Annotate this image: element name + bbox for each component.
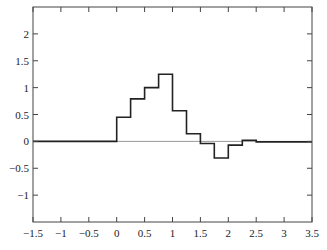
- x-tick-label: 3.5: [305, 227, 319, 239]
- x-axis-ticks: −1.5−1−0.500.511.522.533.5: [23, 7, 319, 239]
- x-tick-label: 0.5: [138, 227, 152, 239]
- plot-frame: [33, 7, 312, 222]
- x-tick-label: 3: [281, 227, 287, 239]
- y-tick-label: −1: [17, 189, 29, 201]
- y-tick-label: 2: [24, 28, 30, 40]
- x-tick-label: 0: [114, 227, 120, 239]
- y-tick-label: 0.5: [15, 109, 29, 121]
- x-tick-label: 2: [226, 227, 232, 239]
- x-tick-label: −1: [55, 227, 67, 239]
- y-tick-label: −0.5: [9, 162, 29, 174]
- x-tick-label: 1.5: [194, 227, 208, 239]
- x-tick-label: 1: [170, 227, 176, 239]
- x-tick-label: −0.5: [79, 227, 99, 239]
- x-tick-label: 2.5: [249, 227, 263, 239]
- step-line: [33, 74, 312, 158]
- y-axis-ticks: −1−0.500.511.52: [9, 28, 312, 201]
- step-series: [33, 74, 312, 158]
- step-chart: −1.5−1−0.500.511.522.533.5 −1−0.500.511.…: [0, 0, 327, 250]
- y-tick-label: 1.5: [15, 55, 29, 67]
- x-tick-label: −1.5: [23, 227, 43, 239]
- y-tick-label: 1: [24, 82, 30, 94]
- y-tick-label: 0: [24, 135, 30, 147]
- axes-box: [33, 7, 312, 222]
